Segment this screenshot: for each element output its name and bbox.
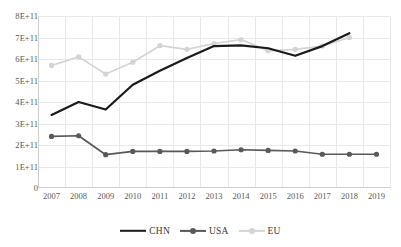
data-point	[157, 43, 162, 48]
data-point	[293, 148, 298, 153]
x-axis-tick-label: 2014	[233, 191, 250, 201]
y-axis-tick-label: 6E+11	[15, 54, 38, 64]
series-line	[52, 33, 350, 115]
x-axis-tick-label: 2007	[43, 191, 60, 201]
data-point	[76, 133, 81, 138]
series-chn	[52, 33, 350, 115]
data-point	[238, 37, 243, 42]
data-point	[76, 54, 81, 59]
data-point	[49, 134, 54, 139]
x-axis-tick-labels: 2007200820092010201120122013201420152016…	[38, 191, 390, 205]
data-point	[103, 152, 108, 157]
series-line	[52, 38, 350, 75]
y-axis-tick-label: 3E+11	[15, 119, 38, 129]
data-point	[238, 147, 243, 152]
x-axis-tick-label: 2011	[152, 191, 169, 201]
x-axis-tick-label: 2017	[314, 191, 331, 201]
legend-swatch-icon	[120, 226, 146, 236]
data-point	[130, 149, 135, 154]
data-point	[293, 47, 298, 52]
y-axis-tick-label: 4E+11	[15, 97, 38, 107]
legend-label: EU	[268, 226, 281, 236]
data-point	[347, 35, 352, 40]
data-point	[266, 148, 271, 153]
data-point	[103, 71, 108, 76]
y-axis-tick-label: 8E+11	[15, 11, 38, 21]
x-axis-tick-label: 2010	[124, 191, 141, 201]
x-axis-tick-label: 2015	[260, 191, 277, 201]
x-axis-tick-label: 2009	[97, 191, 114, 201]
legend-label: CHN	[149, 226, 170, 236]
legend-swatch-icon	[180, 226, 206, 236]
data-point	[374, 152, 379, 157]
legend-item-usa[interactable]: USA	[180, 226, 229, 236]
series-container	[38, 16, 390, 188]
data-point	[157, 149, 162, 154]
data-point	[130, 60, 135, 65]
line-chart: 8E+117E+116E+115E+114E+113E+112E+111E+11…	[0, 0, 401, 247]
x-axis-tick-label: 2016	[287, 191, 304, 201]
gridline	[390, 16, 391, 188]
series-eu	[49, 35, 352, 77]
data-point	[49, 63, 54, 68]
y-axis-tick-label: 1E+11	[15, 162, 38, 172]
data-point	[184, 47, 189, 52]
legend-item-eu[interactable]: EU	[239, 226, 281, 236]
x-axis-tick-label: 2013	[206, 191, 223, 201]
x-axis-tick-label: 2008	[70, 191, 87, 201]
data-point	[184, 149, 189, 154]
data-point	[320, 152, 325, 157]
x-axis-tick-label: 2012	[178, 191, 195, 201]
x-axis-tick-label: 2019	[368, 191, 385, 201]
legend-label: USA	[209, 226, 229, 236]
y-axis-tick-label: 5E+11	[15, 76, 38, 86]
chart-legend: CHNUSAEU	[0, 226, 401, 236]
y-axis-tick-label: 7E+11	[15, 33, 38, 43]
data-point	[211, 148, 216, 153]
legend-swatch-icon	[239, 226, 265, 236]
x-axis-tick-label: 2018	[341, 191, 358, 201]
data-point	[347, 152, 352, 157]
series-usa	[49, 133, 379, 157]
y-axis-tick-label: 2E+11	[15, 140, 38, 150]
legend-item-chn[interactable]: CHN	[120, 226, 170, 236]
plot-area	[38, 16, 390, 188]
